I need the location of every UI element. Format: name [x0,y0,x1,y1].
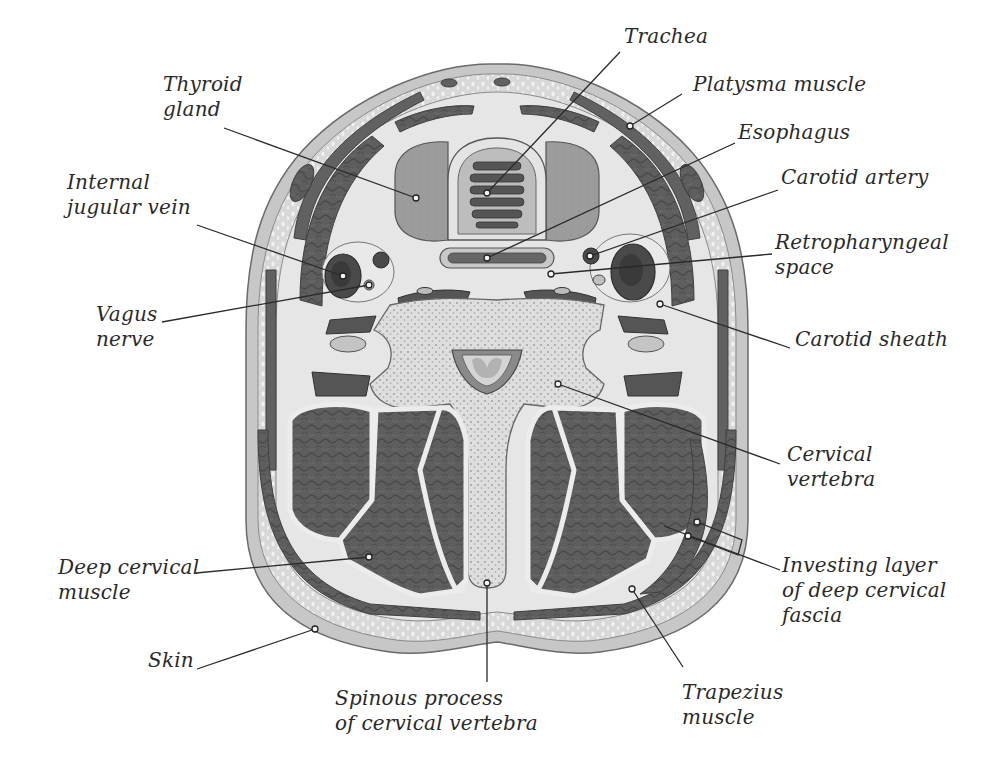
label-skin: Skin [148,648,194,673]
pointer-dot-carotid-sheath [657,301,663,307]
label-carotid-sheath: Carotid sheath [795,327,948,352]
pointer-dot-vagus-nerve [366,282,372,288]
pointer-dot-carotid-artery [587,253,593,259]
trachea-shape [448,138,546,240]
pointer-dot-retropharyngeal-space [548,271,554,277]
pointer-dot-trapezius-muscle [629,586,635,592]
pointer-dot-internal-jugular-vein [340,273,346,279]
label-cervical-vertebra: Cervical vertebra [787,442,875,492]
label-investing-layer-fascia: Investing layer of deep cervical fascia [782,553,946,628]
label-internal-jugular-vein: Internal jugular vein [67,170,191,220]
label-vagus-nerve: Vagus nerve [96,302,157,352]
label-esophagus: Esophagus [738,120,850,145]
pointer-dot-trachea [484,190,490,196]
label-trachea: Trachea [624,24,708,49]
label-spinous-process: Spinous process of cervical vertebra [335,686,538,736]
leader-line-skin [197,629,315,669]
label-trapezius-muscle: Trapezius muscle [682,680,783,730]
pointer-dot-deep-cervical-muscle [366,554,372,560]
pointer-dot-spinous-process [484,580,490,586]
pointer-dot [694,519,700,525]
label-carotid-artery: Carotid artery [781,165,928,190]
label-deep-cervical-muscle: Deep cervical muscle [58,555,199,605]
pointer-dot-platysma-muscle [627,123,633,129]
label-platysma-muscle: Platysma muscle [693,72,866,97]
esophagus-shape [440,248,554,268]
pointer-dot-skin [312,626,318,632]
pointer-dot-esophagus [484,255,490,261]
label-retropharyngeal-space: Retropharyngeal space [775,230,949,280]
pointer-dot [685,533,691,539]
label-thyroid-gland: Thyroid gland [163,72,243,122]
pointer-dot-cervical-vertebra [555,381,561,387]
pointer-dot-thyroid-gland [413,195,419,201]
